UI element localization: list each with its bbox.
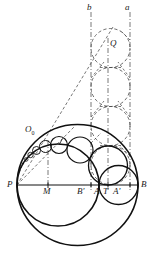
label-line-a: a xyxy=(125,3,130,12)
chain-dot-1 xyxy=(22,162,24,164)
ray-P-to-Q xyxy=(17,27,113,185)
inverted-circle-mid xyxy=(91,68,130,107)
inverted-circle-low xyxy=(91,107,130,146)
label-point-T: T xyxy=(103,187,108,196)
chain-dot-3 xyxy=(19,170,20,171)
inverted-chords-group xyxy=(91,30,130,156)
tangent-left-top xyxy=(91,62,104,78)
tangent-left-mid xyxy=(91,101,104,117)
chain-dot-2 xyxy=(20,166,22,168)
inverted-circle-top xyxy=(91,29,130,68)
label-point-B: B xyxy=(141,180,147,189)
label-line-b: b xyxy=(87,3,92,12)
inverted-circle-bottom xyxy=(91,146,130,185)
label-point-A: A xyxy=(94,187,100,196)
tangent-left-low xyxy=(91,133,101,143)
figure-root: b a Q O0 P M B' A T A' B xyxy=(0,0,155,258)
dashed-rays-group xyxy=(17,27,113,185)
label-point-O0: O0 xyxy=(25,125,35,136)
label-point-P: P xyxy=(7,180,13,189)
label-point-Q: Q xyxy=(110,39,117,48)
label-O0-subscript: 0 xyxy=(32,130,35,136)
geometry-diagram xyxy=(0,0,155,258)
pappus-chain-group xyxy=(24,137,127,186)
label-point-Bprime: B' xyxy=(77,187,84,196)
label-point-Aprime: A' xyxy=(113,187,120,196)
label-point-M: M xyxy=(43,187,51,196)
